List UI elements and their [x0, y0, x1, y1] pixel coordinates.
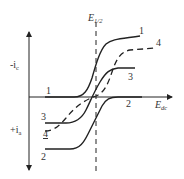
polarographic-wave-diagram: -ic +ia Edc E1/2 1 1 2 2 3 3 4 4 [0, 0, 184, 179]
curve-2-label-left: 2 [41, 151, 46, 162]
curve-4-label-left: 4 [43, 128, 48, 139]
half-wave-potential-label: E1/2 [87, 12, 103, 24]
curve-4-label-right: 4 [156, 37, 161, 48]
potential-label: Edc [154, 99, 167, 111]
anodic-current-label: +ia [10, 124, 21, 136]
curve-4-irreversible [45, 48, 156, 131]
curve-1-cathodic [45, 36, 140, 97]
curve-1-label-left: 1 [46, 85, 51, 96]
curve-3-composite [45, 68, 135, 123]
curve-3-label-right: 3 [128, 71, 133, 82]
curve-1-label-right: 1 [139, 25, 144, 36]
curve-3-label-left: 3 [41, 111, 46, 122]
cathodic-current-label: -ic [10, 59, 19, 71]
curve-2-label-right: 2 [126, 98, 131, 109]
